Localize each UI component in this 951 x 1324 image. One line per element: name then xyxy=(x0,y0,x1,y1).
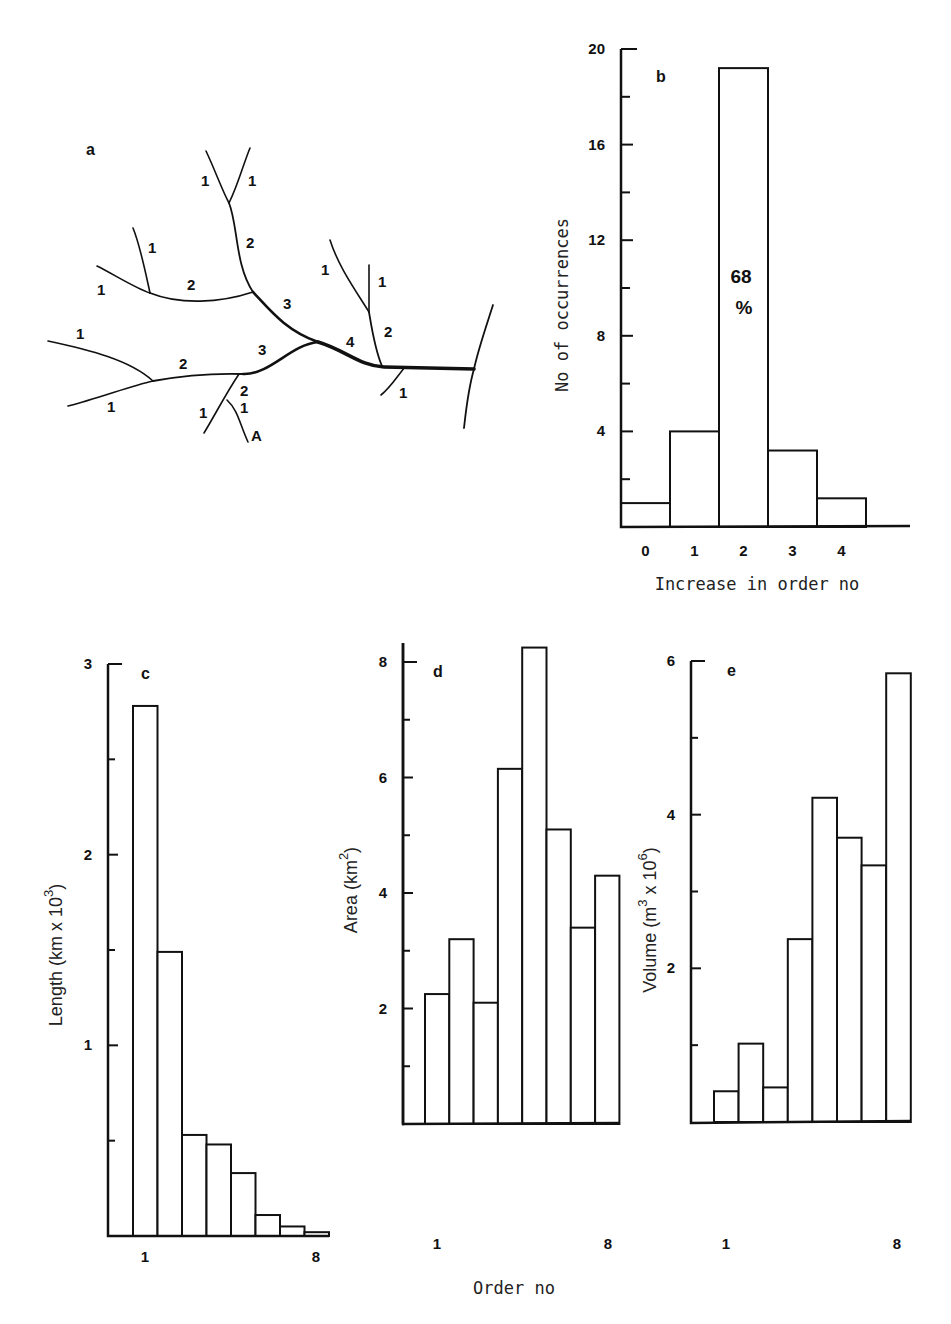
outlet-label-A: A xyxy=(251,427,262,444)
ytick-label: 2 xyxy=(379,1000,387,1017)
bar-c-4 xyxy=(207,1144,232,1236)
bar-e-7 xyxy=(862,865,887,1122)
ytick-label: 4 xyxy=(379,884,388,901)
shared-xlabel-order-no: Order no xyxy=(473,1278,555,1298)
order-label: 1 xyxy=(321,261,329,278)
order-label: 1 xyxy=(148,239,156,256)
panel-b-annotation-value: 68 xyxy=(730,266,751,287)
order-label: 3 xyxy=(258,341,266,358)
stream-order-labels: 1 1 2 1 1 2 3 1 1 2 4 1 2 3 2 1 1 1 1 xyxy=(76,172,407,421)
bar-c-5 xyxy=(231,1173,256,1236)
ytick-label: 8 xyxy=(597,327,605,344)
stream-order-2 xyxy=(153,374,243,381)
order-label: 2 xyxy=(240,382,248,399)
xtick-label: 4 xyxy=(837,542,846,559)
stream-order-2 xyxy=(150,292,253,301)
order-label: 1 xyxy=(399,384,407,401)
panel-b-letter: b xyxy=(656,68,666,85)
order-label: 1 xyxy=(201,172,209,189)
stream-order-1 xyxy=(330,240,369,312)
order-label: 1 xyxy=(248,172,256,189)
panel-b-chart: 48121620 b 68 % 01234 Increase in order … xyxy=(552,40,910,594)
stream-order-1 xyxy=(204,374,239,433)
order-label: 2 xyxy=(384,323,392,340)
stream-order-1 xyxy=(48,341,153,381)
stream-order-2 xyxy=(369,312,382,366)
bar-b-3 xyxy=(768,451,817,527)
ytick-label: 2 xyxy=(667,959,675,976)
bar-c-1 xyxy=(133,706,158,1236)
stream-order-1 xyxy=(206,151,229,203)
panel-b-yticks: 48121620 xyxy=(588,40,637,479)
bar-e-4 xyxy=(788,939,813,1122)
panel-e-yticks: 246 xyxy=(667,652,705,1045)
bar-d-2 xyxy=(449,939,473,1124)
bar-c-3 xyxy=(182,1135,207,1236)
ytick-label: 16 xyxy=(588,136,605,153)
bar-d-1 xyxy=(425,994,449,1124)
panel-c-ylabel: Length (km x 103) xyxy=(41,884,66,1026)
panel-b-xticks: 01234 xyxy=(641,542,846,559)
panel-d-letter: d xyxy=(433,663,443,680)
panel-d-chart: 2468 d 1 8 Area (km2) xyxy=(336,643,620,1252)
panel-d-ylabel: Area (km2) xyxy=(336,847,361,933)
panel-c-bars xyxy=(133,706,329,1236)
ytick-label: 8 xyxy=(379,653,387,670)
panel-d-xtick-1: 1 xyxy=(433,1235,441,1252)
bar-e-6 xyxy=(837,838,862,1122)
order-label: 1 xyxy=(240,399,248,416)
ytick-label: 4 xyxy=(597,422,606,439)
bar-e-8 xyxy=(886,673,911,1122)
panel-e-letter: e xyxy=(727,662,736,679)
panel-b-xlabel: Increase in order no xyxy=(655,574,860,594)
panel-c-yticks: 123 xyxy=(84,655,122,1141)
ytick-label: 2 xyxy=(84,846,92,863)
bar-d-3 xyxy=(474,1003,498,1124)
receiving-river xyxy=(464,305,493,428)
bar-b-1 xyxy=(670,431,719,527)
bar-e-2 xyxy=(739,1044,764,1122)
panel-d-yticks: 2468 xyxy=(379,653,417,1066)
ytick-label: 6 xyxy=(379,769,387,786)
xtick-label: 3 xyxy=(788,542,796,559)
xtick-label: 1 xyxy=(690,542,698,559)
order-label: 1 xyxy=(199,404,207,421)
order-label: 2 xyxy=(187,276,195,293)
ytick-label: 1 xyxy=(84,1036,92,1053)
panel-c-chart: 123 c 1 8 Length (km x 103) xyxy=(41,655,329,1265)
bar-d-4 xyxy=(498,769,522,1124)
order-label: 2 xyxy=(179,355,187,372)
stream-order-1 xyxy=(229,148,250,203)
bar-b-4 xyxy=(817,498,866,527)
bar-d-7 xyxy=(571,928,595,1124)
panel-e-xtick-1: 1 xyxy=(722,1235,730,1252)
bar-d-6 xyxy=(547,829,571,1124)
panel-e-chart: 246 e 1 8 Volume (m3 x 106) xyxy=(635,652,911,1252)
ytick-label: 6 xyxy=(667,652,675,669)
order-label: 4 xyxy=(346,333,355,350)
ytick-label: 20 xyxy=(588,40,605,57)
bar-b-0 xyxy=(621,503,670,527)
panel-e-ylabel: Volume (m3 x 106) xyxy=(635,847,660,993)
bar-e-5 xyxy=(812,798,837,1122)
ytick-label: 3 xyxy=(84,655,92,672)
bar-d-8 xyxy=(595,876,619,1124)
panel-e-bars xyxy=(714,673,911,1122)
order-label: 3 xyxy=(283,295,291,312)
panel-b-ylabel: No of occurrences xyxy=(552,218,572,392)
panel-d-bars xyxy=(425,648,619,1124)
bar-c-6 xyxy=(256,1215,281,1236)
order-label: 1 xyxy=(76,325,84,342)
panel-c-letter: c xyxy=(141,665,150,682)
figure-canvas: a 1 1 2 1 1 2 3 1 1 xyxy=(0,0,951,1324)
panel-c-xtick-8: 8 xyxy=(312,1248,320,1265)
panel-a-letter: a xyxy=(86,141,95,158)
order-label: 1 xyxy=(378,273,386,290)
order-label: 1 xyxy=(97,281,105,298)
order-label: 2 xyxy=(246,234,254,251)
panel-b-annotation-percent: % xyxy=(736,297,753,318)
order-label: 1 xyxy=(107,398,115,415)
ytick-label: 4 xyxy=(667,806,676,823)
panel-d-xtick-8: 8 xyxy=(604,1235,612,1252)
bar-e-1 xyxy=(714,1091,739,1122)
